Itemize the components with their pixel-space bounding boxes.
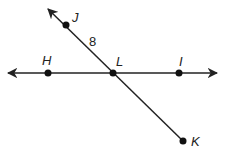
point-k — [180, 138, 187, 145]
point-h — [45, 70, 52, 77]
label-l: L — [116, 54, 123, 69]
point-l — [110, 70, 117, 77]
point-j — [63, 22, 70, 29]
label-j: J — [71, 10, 79, 25]
point-i — [176, 70, 183, 77]
label-k: K — [191, 134, 201, 149]
label-i: I — [179, 54, 183, 69]
label-measure-jl: 8 — [89, 34, 96, 49]
geometry-diagram: J 8 H L I K — [0, 0, 232, 152]
label-h: H — [42, 53, 52, 68]
